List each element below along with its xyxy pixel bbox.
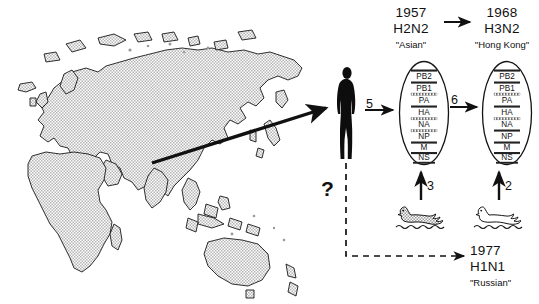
svg-text:HA: HA — [418, 108, 430, 117]
pandemic-year: 1957 — [380, 5, 442, 21]
duck-icon-outline — [472, 202, 528, 234]
pandemic-year: 1977 — [470, 243, 536, 259]
pandemic-nickname: "Hong Kong" — [466, 39, 538, 51]
diagram-canvas: 1957 H2N2 "Asian" 1968 H3N2 "Hong Kong" … — [0, 0, 539, 304]
world-map — [2, 28, 320, 300]
pandemic-nickname: "Russian" — [470, 277, 536, 289]
svg-text:NS: NS — [418, 153, 430, 162]
pandemic-year: 1968 — [466, 5, 538, 21]
pandemic-label-1968: 1968 H3N2 "Hong Kong" — [466, 5, 538, 51]
svg-text:PA: PA — [502, 96, 513, 105]
arrow-label-duck-to-h3n2: 2 — [505, 180, 512, 193]
svg-text:PA: PA — [419, 96, 430, 105]
pandemic-subtype: H2N2 — [380, 21, 442, 37]
svg-text:HA: HA — [501, 108, 513, 117]
svg-text:PB2: PB2 — [416, 72, 432, 81]
duck-icon-shaded — [394, 202, 450, 234]
pandemic-label-1957: 1957 H2N2 "Asian" — [380, 5, 442, 51]
unknown-origin-question-mark: ? — [321, 178, 334, 199]
arrow-label-human-to-h2n2: 5 — [366, 98, 373, 111]
svg-text:NA: NA — [501, 120, 513, 129]
human-silhouette-figure — [333, 66, 361, 161]
svg-text:M: M — [421, 143, 428, 152]
svg-text:NP: NP — [501, 132, 513, 141]
svg-text:NA: NA — [418, 120, 430, 129]
pandemic-subtype: H1N1 — [470, 259, 536, 275]
arrow-label-h2n2-to-h3n2: 6 — [451, 94, 458, 107]
svg-text:PB1: PB1 — [499, 84, 515, 93]
virion-h2n2: PB2 PB1 PA HA NA NP M — [398, 60, 450, 166]
pandemic-nickname: "Asian" — [380, 39, 442, 51]
svg-text:PB1: PB1 — [416, 84, 432, 93]
svg-text:M: M — [504, 143, 511, 152]
pandemic-label-1977: 1977 H1N1 "Russian" — [470, 243, 536, 289]
svg-text:NS: NS — [501, 153, 513, 162]
svg-text:PB2: PB2 — [499, 72, 515, 81]
virion-h3n2: PB2 PB1 PA HA NA NP M NS — [481, 60, 533, 166]
pandemic-subtype: H3N2 — [466, 21, 538, 37]
svg-text:NP: NP — [418, 132, 430, 141]
arrow-label-duck-to-h2n2: 3 — [427, 180, 434, 193]
